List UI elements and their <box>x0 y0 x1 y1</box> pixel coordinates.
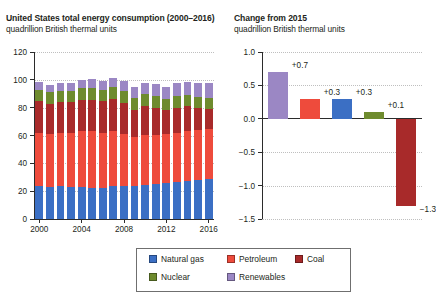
y-axis-label: 40 <box>0 159 27 168</box>
y-axis-label: 100 <box>0 75 27 84</box>
change-bar-nuclear <box>364 112 384 119</box>
left-chart-title: United States total energy consumption (… <box>6 13 226 24</box>
bar-segment-renewables <box>57 83 65 91</box>
bar-segment-petroleum <box>152 135 160 184</box>
bar-segment-renewables <box>141 83 149 94</box>
bar-segment-natural-gas <box>173 182 181 219</box>
bar-segment-coal <box>99 101 107 132</box>
y-axis-label: −1.5 <box>223 215 255 224</box>
bar-segment-renewables <box>131 87 139 98</box>
bar-segment-coal <box>205 109 213 129</box>
bar-segment-coal <box>120 103 128 134</box>
change-bar-coal <box>396 119 416 206</box>
bar-segment-petroleum <box>141 135 149 185</box>
legend-item-coal: Coal <box>295 254 324 264</box>
stacked-bar <box>88 52 96 219</box>
bar-segment-natural-gas <box>67 187 75 219</box>
bar-segment-renewables <box>173 83 181 96</box>
bar-segment-petroleum <box>57 133 65 186</box>
stacked-bar <box>205 52 213 219</box>
bar-segment-natural-gas <box>162 183 170 219</box>
y-axis-label: 120 <box>0 48 27 57</box>
stacked-bar <box>173 52 181 219</box>
legend-label-petroleum: Petroleum <box>239 254 277 264</box>
bar-segment-renewables <box>78 80 86 89</box>
stacked-bar <box>35 52 43 219</box>
bar-segment-renewables <box>162 87 170 99</box>
bar-segment-nuclear <box>131 98 139 110</box>
bar-segment-renewables <box>184 82 192 95</box>
bar-segment-natural-gas <box>88 188 96 219</box>
x-axis-label: 2008 <box>115 225 133 234</box>
bar-segment-petroleum <box>120 134 128 186</box>
bar-segment-renewables <box>35 82 43 91</box>
legend-swatch-coal <box>295 255 303 263</box>
bar-segment-coal <box>173 108 181 133</box>
y-axis-label: 1.0 <box>223 48 255 57</box>
bar-segment-nuclear <box>205 98 213 110</box>
bar-segment-nuclear <box>173 96 181 107</box>
y-axis-label: 0.5 <box>223 81 255 90</box>
bar-segment-renewables <box>46 85 54 92</box>
x-tick <box>124 219 125 223</box>
left-chart-titles: United States total energy consumption (… <box>6 13 226 35</box>
bar-segment-renewables <box>194 83 202 96</box>
bar-segment-renewables <box>67 83 75 91</box>
bar-segment-natural-gas <box>78 187 86 219</box>
gridline <box>262 52 422 53</box>
left-chart-panel: United States total energy consumption (… <box>0 0 228 245</box>
y-axis-label: −1.0 <box>223 181 255 190</box>
bar-segment-nuclear <box>99 90 107 101</box>
legend-swatch-natural-gas <box>149 255 157 263</box>
bar-segment-nuclear <box>78 88 86 99</box>
stacked-bar <box>57 52 65 219</box>
bar-segment-coal <box>131 110 139 137</box>
legend-item-petroleum: Petroleum <box>227 254 277 264</box>
x-axis-label: 2012 <box>157 225 175 234</box>
stacked-bar <box>194 52 202 219</box>
bar-segment-renewables <box>120 81 128 91</box>
bar-segment-renewables <box>152 84 160 97</box>
stacked-bar <box>120 52 128 219</box>
x-tick <box>166 219 167 223</box>
bar-segment-petroleum <box>173 133 181 182</box>
left-chart-subtitle: quadrillion British thermal units <box>6 24 226 35</box>
legend-row-1: Natural gas Petroleum Coal <box>137 254 350 271</box>
right-chart-title: Change from 2015 <box>234 13 432 24</box>
legend-item-nuclear: Nuclear <box>149 272 190 282</box>
bar-segment-renewables <box>109 78 117 87</box>
right-chart-panel: Change from 2015 quadrillion British the… <box>228 0 433 245</box>
y-axis-line <box>262 52 263 219</box>
bar-segment-petroleum <box>99 133 107 189</box>
bar-segment-nuclear <box>184 95 192 107</box>
bar-segment-coal <box>88 100 96 132</box>
legend-label-coal: Coal <box>307 254 324 264</box>
stacked-bar <box>152 52 160 219</box>
legend-swatch-nuclear <box>149 273 157 281</box>
bar-segment-coal <box>46 104 54 134</box>
bar-segment-coal <box>141 106 149 135</box>
right-chart-subtitle: quadrillion British thermal units <box>234 24 432 35</box>
bar-segment-petroleum <box>109 131 117 186</box>
y-axis-label: −0.5 <box>223 148 255 157</box>
bar-value-label: +0.3 <box>324 88 340 97</box>
bar-segment-nuclear <box>162 99 170 110</box>
change-bar-renewables <box>268 72 288 119</box>
x-tick <box>81 219 82 223</box>
bar-segment-petroleum <box>78 131 86 187</box>
legend-item-natural-gas: Natural gas <box>149 254 204 264</box>
bar-segment-petroleum <box>205 129 213 179</box>
bar-segment-coal <box>57 102 65 132</box>
bar-segment-petroleum <box>184 131 192 180</box>
bar-segment-renewables <box>88 79 96 88</box>
legend-item-renewables: Renewables <box>227 272 285 282</box>
bar-segment-nuclear <box>57 91 65 102</box>
change-bar-petroleum <box>300 99 320 119</box>
bar-segment-petroleum <box>67 133 75 187</box>
stacked-bar <box>78 52 86 219</box>
x-axis-label: 2004 <box>73 225 91 234</box>
bar-segment-natural-gas <box>131 186 139 219</box>
y-axis-label: 80 <box>0 103 27 112</box>
stacked-bar <box>131 52 139 219</box>
bar-segment-natural-gas <box>141 185 149 219</box>
